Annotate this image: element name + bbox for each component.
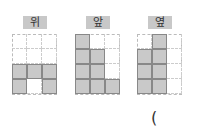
- empty-cell: [27, 49, 42, 64]
- empty-cell: [27, 34, 42, 49]
- empty-cell: [105, 49, 120, 64]
- filled-cell: [90, 49, 105, 64]
- empty-cell: [42, 34, 57, 49]
- filled-cell: [90, 64, 105, 79]
- filled-cell: [137, 79, 152, 94]
- empty-cell: [12, 34, 27, 49]
- empty-cell: [27, 79, 42, 94]
- empty-cell: [42, 49, 57, 64]
- empty-cell: [167, 34, 182, 49]
- filled-cell: [42, 79, 57, 94]
- filled-cell: [75, 34, 90, 49]
- filled-cell: [152, 49, 167, 64]
- view-label-top: 위: [23, 16, 47, 29]
- filled-cell: [137, 64, 152, 79]
- empty-cell: [137, 34, 152, 49]
- grid-side: [137, 34, 182, 95]
- view-label-front: 앞: [86, 16, 110, 29]
- filled-cell: [75, 79, 90, 94]
- filled-cell: [12, 79, 27, 94]
- filled-cell: [90, 79, 105, 94]
- empty-cell: [90, 34, 105, 49]
- empty-cell: [12, 49, 27, 64]
- grid-front: [75, 34, 120, 95]
- answer-parenthesis: (: [151, 108, 157, 127]
- filled-cell: [137, 49, 152, 64]
- filled-cell: [27, 64, 42, 79]
- filled-cell: [152, 34, 167, 49]
- empty-cell: [167, 79, 182, 94]
- filled-cell: [12, 64, 27, 79]
- filled-cell: [152, 79, 167, 94]
- empty-cell: [167, 64, 182, 79]
- grid-top: [12, 34, 57, 95]
- filled-cell: [75, 64, 90, 79]
- empty-cell: [105, 64, 120, 79]
- filled-cell: [152, 64, 167, 79]
- empty-cell: [167, 49, 182, 64]
- view-label-side: 옆: [148, 16, 172, 29]
- filled-cell: [75, 49, 90, 64]
- filled-cell: [42, 64, 57, 79]
- empty-cell: [105, 34, 120, 49]
- filled-cell: [105, 79, 120, 94]
